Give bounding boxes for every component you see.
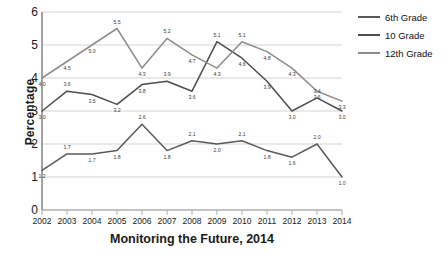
legend-swatch-12th-grade [358, 52, 380, 54]
data-label: 2.0 [313, 134, 320, 140]
data-label: 3.6 [188, 94, 195, 100]
legend-swatch-6th-grade [358, 16, 380, 18]
data-label: 1.2 [38, 173, 45, 179]
chart-legend: 6th Grade 10 Grade 12th Grade [358, 9, 444, 63]
data-label: 3.3 [338, 104, 345, 110]
data-label: 2.1 [238, 131, 245, 137]
data-label: 1.0 [338, 180, 345, 186]
data-label: 4.5 [63, 65, 70, 71]
x-tick-label: 2014 [327, 216, 357, 226]
chart-title: Monitoring the Future, 2014 [42, 232, 342, 246]
y-tick-label: 0 [14, 203, 38, 217]
data-label: 5.5 [113, 19, 120, 25]
data-label: 1.8 [163, 154, 170, 160]
legend-item-12th-grade: 12th Grade [358, 45, 444, 61]
data-label: 3.0 [288, 114, 295, 120]
y-tick-label: 6 [14, 5, 38, 19]
data-label: 3.8 [138, 88, 145, 94]
y-tick-label: 4 [14, 71, 38, 85]
data-label: 2.6 [138, 114, 145, 120]
data-label: 2.0 [213, 147, 220, 153]
data-label: 5.2 [163, 28, 170, 34]
data-label: 3.2 [113, 107, 120, 113]
data-label: 4.3 [138, 71, 145, 77]
data-label: 3.4 [313, 88, 320, 94]
data-label: 1.8 [113, 154, 120, 160]
chart-canvas [42, 12, 342, 210]
data-label: 3.9 [163, 71, 170, 77]
data-label: 3.6 [63, 81, 70, 87]
data-label: 4.8 [263, 55, 270, 61]
data-label: 4.6 [238, 61, 245, 67]
y-tick-label: 1 [14, 170, 38, 184]
line-chart: Percentage 6543210 1.21.71.71.82.61.82.1… [0, 0, 445, 257]
data-label: 5.1 [238, 32, 245, 38]
data-label: 3.9 [263, 84, 270, 90]
legend-label-12th-grade: 12th Grade [385, 48, 433, 59]
data-label: 1.7 [63, 144, 70, 150]
y-axis-ticks: 6543210 [10, 0, 38, 200]
data-label: 3.5 [88, 98, 95, 104]
data-label: 4.3 [213, 71, 220, 77]
y-tick-label: 2 [14, 137, 38, 151]
y-tick-label: 5 [14, 38, 38, 52]
data-label: 5.1 [213, 32, 220, 38]
data-label: 3.0 [338, 114, 345, 120]
data-label: 2.1 [188, 131, 195, 137]
legend-label-6th-grade: 6th Grade [385, 12, 427, 23]
data-label: 1.8 [263, 154, 270, 160]
legend-label-10-grade: 10 Grade [385, 30, 425, 41]
plot-area: 1.21.71.71.82.61.82.12.02.11.81.62.01.03… [42, 12, 342, 210]
data-label: 1.6 [288, 160, 295, 166]
data-label: 3.6 [313, 94, 320, 100]
data-label: 3.0 [38, 114, 45, 120]
data-label: 4.7 [188, 58, 195, 64]
legend-item-10-grade: 10 Grade [358, 27, 444, 43]
data-label: 1.7 [88, 157, 95, 163]
legend-swatch-10-grade [358, 34, 380, 36]
series-line-10-grade [42, 42, 342, 111]
data-label: 4.3 [288, 71, 295, 77]
data-label: 5.0 [88, 48, 95, 54]
data-label: 4.0 [38, 81, 45, 87]
y-tick-label: 3 [14, 104, 38, 118]
legend-item-6th-grade: 6th Grade [358, 9, 444, 25]
